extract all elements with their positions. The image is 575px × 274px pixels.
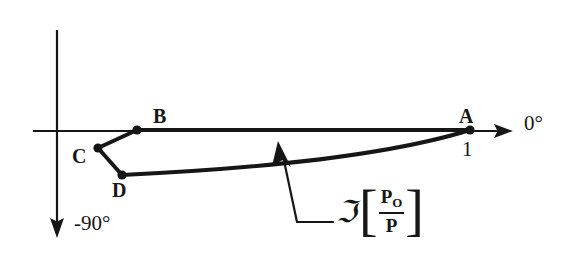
imaginary-axis-label: -90°: [74, 213, 110, 234]
figure-root: B A C D 1 0° -90° ℑ [ PO P ]: [0, 0, 575, 274]
point-dot-B: [132, 125, 141, 134]
point-label-A: A: [459, 106, 473, 126]
point-label-C: C: [72, 146, 86, 166]
numerator-symbol: P: [381, 186, 393, 207]
locus-vertex-dots: [93, 125, 474, 179]
fraction-numerator: PO: [379, 186, 405, 212]
bracket-open: [: [359, 190, 378, 230]
locus-curve: [98, 130, 470, 175]
point-label-D: D: [112, 180, 126, 200]
annotation-leader-line: [272, 141, 333, 222]
real-axis-label: 0°: [524, 113, 543, 134]
imaginary-axis: [50, 30, 64, 238]
annotation-formula: ℑ [ PO P ]: [336, 186, 424, 237]
bracket-close: ]: [405, 190, 424, 230]
fraction-denominator: P: [384, 214, 400, 237]
point-dot-C: [93, 143, 102, 152]
numerator-subscript: O: [392, 195, 402, 210]
point-label-B: B: [153, 106, 166, 126]
power-ratio-fraction: PO P: [379, 186, 405, 237]
tick-label-one: 1: [462, 139, 473, 160]
imaginary-part-operator-symbol: ℑ: [336, 197, 357, 227]
